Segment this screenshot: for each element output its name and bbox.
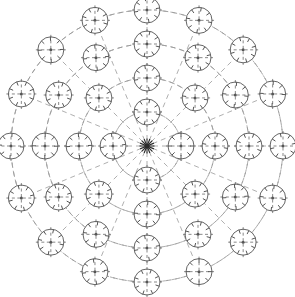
node-tick [186,18,190,19]
node-center-dot [112,145,115,148]
node-marker[interactable] [44,182,74,212]
node-tick [208,22,212,23]
ring-arc-2 [81,160,90,182]
ring-arc-4 [161,276,185,281]
radial-network-diagram [0,0,295,297]
ring-arc-4 [62,252,82,266]
node-marker[interactable] [132,199,162,229]
node-marker[interactable] [183,43,213,73]
node-tick [182,96,186,97]
node-tick [156,76,160,77]
node-marker[interactable] [80,5,110,35]
node-marker[interactable] [81,43,111,73]
node-tick [145,0,146,1]
node-center-dot [20,197,23,200]
node-marker[interactable] [132,267,162,297]
node-marker[interactable] [268,131,295,161]
node-center-dot [282,145,285,148]
ring-arc-4 [109,11,133,16]
ring-arc-4 [28,61,42,81]
node-tick [83,233,87,234]
node-tick [196,85,197,89]
node-tick [97,221,98,225]
ring-arc-4 [12,108,17,132]
node-center-dot [271,92,274,95]
node-marker[interactable] [220,182,250,212]
node-tick [145,65,146,69]
node-center-dot [93,270,96,273]
node-center-dot [194,96,197,99]
ring-arc-3 [161,241,185,247]
node-center-dot [234,196,237,199]
node-center-dot [146,247,149,250]
node-center-dot [146,281,149,284]
radial-network-canvas [0,0,295,297]
node-marker[interactable] [80,257,110,287]
hub-center-dot [144,143,149,148]
node-marker[interactable] [184,5,214,35]
node-center-dot [242,241,245,244]
node-marker[interactable] [258,79,288,109]
node-marker[interactable] [183,219,213,249]
node-center-dot [95,56,98,59]
node-marker[interactable] [132,63,162,93]
hub-layer [140,139,155,154]
node-marker[interactable] [166,131,196,161]
ring-arc-2 [161,80,183,89]
node-marker[interactable] [132,97,162,127]
node-center-dot [95,233,98,236]
node-tick [193,107,194,111]
node-center-dot [78,145,81,148]
node-marker[interactable] [228,227,258,257]
node-tick [134,80,138,81]
node-marker[interactable] [81,219,111,249]
node-marker[interactable] [98,131,128,161]
node-marker[interactable] [64,131,94,161]
node-marker[interactable] [6,79,36,109]
ring-arc-4 [212,252,232,266]
ring-arc-3 [46,108,52,132]
ring-arc-3 [161,45,185,51]
node-marker[interactable] [30,131,60,161]
node-marker[interactable] [44,80,74,110]
node-center-dot [242,48,245,51]
ring-arc-2 [204,160,213,182]
ring-arc-2 [161,203,183,212]
ring-arc-4 [161,11,185,16]
ring-arc-3 [46,160,52,184]
node-marker[interactable] [184,257,214,287]
node-marker[interactable] [132,29,162,59]
node-marker[interactable] [200,131,230,161]
ring-arc-1 [161,160,178,177]
ring-arc-4 [28,211,42,231]
ring-arc-3 [109,45,133,51]
node-marker[interactable] [6,183,36,213]
node-marker[interactable] [36,35,66,65]
ring-arc-1 [116,115,133,132]
node-marker[interactable] [132,165,162,195]
node-tick [201,8,202,12]
node-marker[interactable] [258,183,288,213]
ring-arc-3 [242,160,248,184]
node-center-dot [49,48,52,51]
ring-arc-4 [12,160,17,184]
node-marker[interactable] [220,80,250,110]
node-center-dot [44,145,47,148]
node-marker[interactable] [132,233,162,263]
node-center-dot [146,111,149,114]
ring-arc-2 [110,80,132,89]
node-marker[interactable] [234,131,264,161]
node-center-dot [146,179,149,182]
ring-arc-4 [277,160,282,184]
node-marker[interactable] [132,0,162,25]
node-center-dot [93,19,96,22]
ring-arc-2 [110,203,132,212]
node-center-dot [146,43,149,46]
node-center-dot [197,233,200,236]
node-marker[interactable] [0,131,26,161]
node-center-dot [57,94,60,97]
ring-arc-4 [253,211,267,231]
node-center-dot [198,270,201,273]
node-center-dot [97,193,100,196]
node-center-dot [97,96,100,99]
